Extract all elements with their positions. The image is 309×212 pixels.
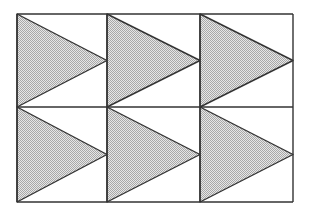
shaded-triangles [17,14,293,202]
triangle-r1-c1 [107,107,200,202]
triangle-r1-c0 [17,107,107,202]
triangle-r0-c0 [17,14,107,107]
triangle-tessellation-figure [0,0,309,212]
triangle-r0-c2 [200,14,293,107]
triangle-r1-c2 [200,107,293,202]
triangle-r0-c1 [107,14,200,107]
